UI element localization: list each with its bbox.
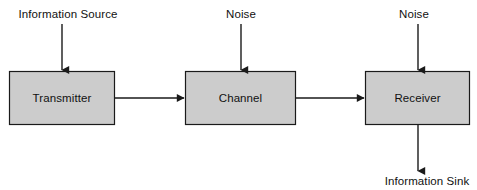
label-information-sink: Information Sink: [385, 175, 470, 188]
label-noise-channel: Noise: [226, 8, 256, 21]
communication-system-diagram: Transmitter Channel Receiver Information…: [0, 0, 477, 190]
label-noise-receiver: Noise: [399, 8, 429, 21]
label-information-source: Information Source: [19, 8, 118, 21]
block-label-receiver: Receiver: [394, 92, 440, 105]
block-label-channel: Channel: [219, 92, 263, 105]
block-label-transmitter: Transmitter: [33, 92, 92, 105]
